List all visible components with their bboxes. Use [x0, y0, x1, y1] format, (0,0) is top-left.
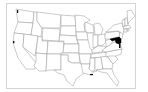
state-colorado[interactable] — [47, 41, 64, 54]
state-oregon[interactable] — [14, 22, 33, 35]
mark-oregon-coast — [13, 41, 14, 43]
mark-louisiana-coast — [90, 74, 93, 75]
state-south-dakota[interactable] — [60, 26, 76, 36]
state-wyoming[interactable] — [42, 28, 60, 41]
states-layer — [13, 9, 135, 86]
state-michigan[interactable] — [94, 23, 103, 35]
state-montana[interactable] — [37, 12, 61, 28]
state-new-mexico[interactable] — [46, 54, 61, 71]
state-maine[interactable] — [127, 10, 135, 24]
state-arkansas[interactable] — [79, 54, 91, 64]
mark-washington — [17, 10, 18, 13]
state-rhode-island[interactable] — [127, 29, 129, 31]
state-washington[interactable] — [16, 9, 34, 23]
state-florida[interactable] — [96, 69, 119, 86]
state-mississippi[interactable] — [89, 58, 95, 71]
state-kansas[interactable] — [63, 44, 79, 53]
state-north-dakota[interactable] — [61, 15, 76, 26]
state-wisconsin[interactable] — [85, 22, 94, 33]
state-indiana[interactable] — [93, 35, 98, 48]
mark-virginia-coast — [119, 44, 121, 48]
us-map — [6, 3, 136, 89]
state-arizona[interactable] — [34, 53, 47, 71]
state-connecticut[interactable] — [124, 29, 127, 32]
